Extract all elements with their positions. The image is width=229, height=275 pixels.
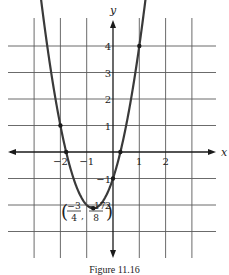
y-tick-label: −1 [96,174,111,185]
comma: , [81,211,84,221]
x-tick-label: −2 [53,156,68,167]
y-tick-label: 4 [105,41,111,52]
data-point [58,123,62,127]
vertex-x-numerator: −3 [67,201,81,211]
y-tick-label: 2 [105,94,111,105]
vertex-y-numerator: −17 [87,201,106,211]
grid-lines [8,18,216,258]
vertex-y-denominator: 8 [93,213,99,223]
data-point [137,44,141,48]
marked-points [58,44,141,211]
x-tick-label: −1 [79,156,94,167]
x-axis-arrow-left-icon [8,149,16,155]
data-point [64,150,68,154]
data-point [111,176,115,180]
parabola-path [40,0,148,208]
vertex-x-denominator: 4 [71,213,77,223]
y-axis-arrow-up-icon [110,20,116,28]
y-tick-label: 1 [105,121,111,132]
y-tick-label: 3 [105,68,111,79]
data-point [118,150,122,154]
y-axis-arrow-down-icon [110,250,116,258]
axes [8,20,216,258]
x-tick-label: 1 [136,156,142,167]
right-paren: ) [106,201,113,222]
x-tick-label: 2 [162,156,168,167]
x-axis-label: x [221,146,228,159]
x-axis-arrow-right-icon [208,149,216,155]
y-axis-label: y [109,4,117,17]
parabola-curve [40,0,148,208]
figure-caption: Figure 11.16 [0,264,229,275]
